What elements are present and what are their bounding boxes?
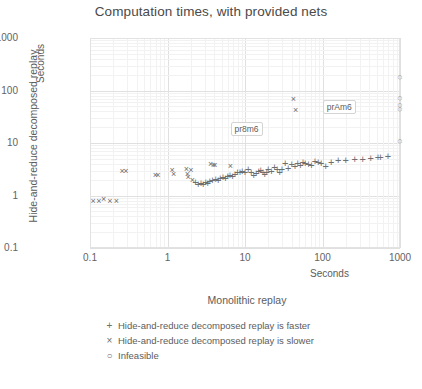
legend-item-label: Infeasible [118,350,159,361]
annotation-label: prAm6 [323,100,356,114]
x-tick-label: 0.1 [60,252,120,263]
x-tick-label: 1000 [370,252,422,263]
legend-item: +Hide-and-reduce decomposed replay is fa… [104,318,384,333]
y-axis-units-label: Seconds [35,14,46,114]
annotation-label: pr8m6 [231,122,263,136]
legend-marker-icon: + [104,320,115,331]
legend-marker-icon: ○ [104,350,115,361]
y-tick-label: 10 [0,137,18,148]
legend-marker-icon: × [104,335,115,346]
y-tick-label: 100 [0,85,18,96]
legend-item-label: Hide-and-reduce decomposed replay is fas… [118,320,310,331]
x-axis-title: Monolithic replay [88,294,406,306]
x-tick-label: 1 [138,252,198,263]
x-tick-label: 100 [293,252,353,263]
x-axis-units-label: Seconds [310,268,349,279]
plot-frame [90,38,400,248]
chart-title: Computation times, with provided nets [0,4,422,19]
legend-item-label: Hide-and-reduce decomposed replay is slo… [118,335,314,346]
x-tick-label: 10 [215,252,275,263]
gridline-y-major [90,248,400,249]
legend-item: ×Hide-and-reduce decomposed replay is sl… [104,333,384,348]
gridline-x-major [400,38,401,248]
y-tick-label: 1 [0,190,18,201]
chart-figure: Computation times, with provided nets Hi… [0,0,422,389]
y-tick-label: 1000 [0,32,18,43]
y-tick-label: 0.1 [0,242,18,253]
legend-item: ○Infeasible [104,348,384,363]
plot-area: ××××××××××××××××××××××++++++++++++++++++… [90,38,400,248]
chart-legend: +Hide-and-reduce decomposed replay is fa… [104,318,384,363]
